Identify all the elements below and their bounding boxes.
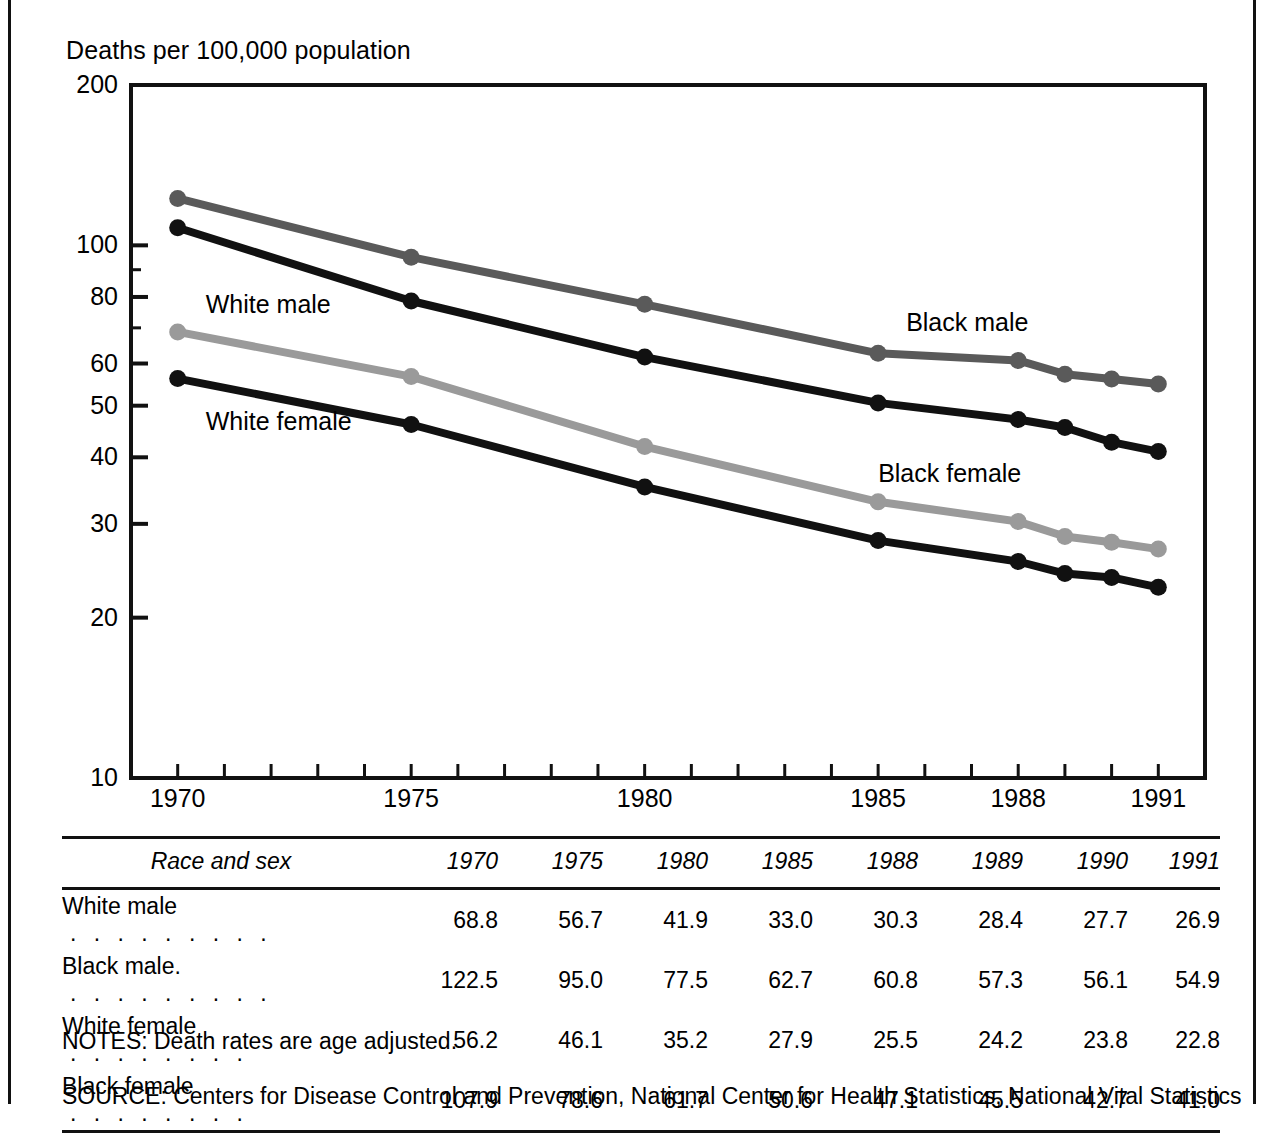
table-cell-1985: 27.9 bbox=[708, 1010, 813, 1070]
data-point-white-female-1970 bbox=[169, 370, 186, 387]
table-col-1989: 1989 bbox=[918, 839, 1023, 886]
data-point-white-male-1980 bbox=[636, 438, 653, 455]
table-col-race-and-sex: Race and sex bbox=[62, 839, 380, 886]
table-cell-1975: 95.0 bbox=[498, 950, 603, 1010]
data-point-black-male-1980 bbox=[636, 296, 653, 313]
data-point-black-female-1985 bbox=[870, 394, 887, 411]
table-cell-1989: 28.4 bbox=[918, 890, 1023, 950]
series-label-white-male: White male bbox=[206, 290, 331, 319]
table-cell-1991: 54.9 bbox=[1128, 950, 1220, 1010]
dot-leader: . . . . . . . . . bbox=[70, 920, 272, 947]
data-point-black-male-1990 bbox=[1103, 371, 1120, 388]
table-cell-1990: 27.7 bbox=[1023, 890, 1128, 950]
data-point-white-female-1990 bbox=[1103, 569, 1120, 586]
table-cell-1990: 23.8 bbox=[1023, 1010, 1128, 1070]
data-point-white-female-1991 bbox=[1150, 579, 1167, 596]
table-col-1990: 1990 bbox=[1023, 839, 1128, 886]
table-cell-1989: 57.3 bbox=[918, 950, 1023, 1010]
notes-text: NOTES: Death rates are age adjusted. bbox=[62, 1028, 457, 1055]
data-point-black-male-1988 bbox=[1010, 352, 1027, 369]
data-point-white-male-1985 bbox=[870, 493, 887, 510]
row-label-text: White male bbox=[62, 893, 177, 919]
y-tick-label-50: 50 bbox=[48, 393, 118, 418]
table-col-1988: 1988 bbox=[813, 839, 918, 886]
data-point-black-female-1980 bbox=[636, 349, 653, 366]
table-cell-1975: 46.1 bbox=[498, 1010, 603, 1070]
table-cell-1985: 62.7 bbox=[708, 950, 813, 1010]
table-cell-1989: 24.2 bbox=[918, 1010, 1023, 1070]
table-col-1975: 1975 bbox=[498, 839, 603, 886]
x-tick-label-1991: 1991 bbox=[1098, 786, 1218, 811]
table-cell-1991: 26.9 bbox=[1128, 890, 1220, 950]
row-label-text: Black male. bbox=[62, 953, 181, 979]
x-tick-label-1985: 1985 bbox=[818, 786, 938, 811]
data-point-white-male-1975 bbox=[403, 368, 420, 385]
data-point-black-female-1970 bbox=[169, 219, 186, 236]
data-point-black-male-1989 bbox=[1056, 366, 1073, 383]
line-chart-plot bbox=[0, 0, 1264, 830]
y-tick-label-60: 60 bbox=[48, 351, 118, 376]
table-cell-1988: 25.5 bbox=[813, 1010, 918, 1070]
table-header-row: Race and sex 1970 1975 1980 1985 1988 19… bbox=[62, 839, 1220, 886]
data-point-white-female-1985 bbox=[870, 532, 887, 549]
table-row: White male. . . . . . . . .68.856.741.93… bbox=[62, 890, 1220, 950]
table-cell-1980: 35.2 bbox=[603, 1010, 708, 1070]
data-point-black-female-1988 bbox=[1010, 411, 1027, 428]
data-point-black-female-1990 bbox=[1103, 434, 1120, 451]
y-tick-label-100: 100 bbox=[48, 232, 118, 257]
data-point-black-female-1975 bbox=[403, 293, 420, 310]
series-label-black-male: Black male bbox=[906, 308, 1028, 337]
table-cell-1980: 41.9 bbox=[603, 890, 708, 950]
data-point-black-male-1970 bbox=[169, 190, 186, 207]
table-col-1970: 1970 bbox=[380, 839, 498, 886]
x-tick-label-1980: 1980 bbox=[585, 786, 705, 811]
table-cell-1985: 33.0 bbox=[708, 890, 813, 950]
table-cell-1975: 56.7 bbox=[498, 890, 603, 950]
data-point-white-female-1988 bbox=[1010, 553, 1027, 570]
source-text: SOURCE: Centers for Disease Control and … bbox=[62, 1083, 1241, 1110]
data-point-white-female-1975 bbox=[403, 416, 420, 433]
y-tick-label-10: 10 bbox=[48, 765, 118, 790]
data-point-black-male-1991 bbox=[1150, 376, 1167, 393]
data-table: Race and sex 1970 1975 1980 1985 1988 19… bbox=[62, 839, 1220, 886]
data-point-white-male-1991 bbox=[1150, 541, 1167, 558]
table-cell-1970: 122.5 bbox=[380, 950, 498, 1010]
table-row: Black male.. . . . . . . . .122.595.077.… bbox=[62, 950, 1220, 1010]
x-tick-label-1970: 1970 bbox=[118, 786, 238, 811]
data-point-black-male-1975 bbox=[403, 249, 420, 266]
data-point-white-female-1989 bbox=[1056, 565, 1073, 582]
series-label-black-female: Black female bbox=[878, 459, 1021, 488]
table-cell-1970: 68.8 bbox=[380, 890, 498, 950]
data-point-black-female-1989 bbox=[1056, 419, 1073, 436]
y-tick-label-200: 200 bbox=[48, 72, 118, 97]
data-point-white-female-1980 bbox=[636, 478, 653, 495]
table-row-label: White male. . . . . . . . . bbox=[62, 890, 380, 950]
table-cell-1988: 30.3 bbox=[813, 890, 918, 950]
y-tick-label-30: 30 bbox=[48, 511, 118, 536]
table-row-label: Black male.. . . . . . . . . bbox=[62, 950, 380, 1010]
table-col-1991: 1991 bbox=[1128, 839, 1220, 886]
y-tick-label-20: 20 bbox=[48, 605, 118, 630]
table-cell-1980: 77.5 bbox=[603, 950, 708, 1010]
data-point-black-male-1985 bbox=[870, 345, 887, 362]
data-point-white-male-1970 bbox=[169, 323, 186, 340]
data-point-white-male-1990 bbox=[1103, 534, 1120, 551]
y-tick-label-80: 80 bbox=[48, 284, 118, 309]
table-col-1985: 1985 bbox=[708, 839, 813, 886]
data-point-black-female-1991 bbox=[1150, 443, 1167, 460]
table-cell-1990: 56.1 bbox=[1023, 950, 1128, 1010]
dot-leader: . . . . . . . . . bbox=[70, 980, 272, 1007]
series-label-white-female: White female bbox=[206, 407, 352, 436]
data-point-white-male-1988 bbox=[1010, 513, 1027, 530]
data-point-white-male-1989 bbox=[1056, 528, 1073, 545]
table-cell-1988: 60.8 bbox=[813, 950, 918, 1010]
x-tick-label-1975: 1975 bbox=[351, 786, 471, 811]
x-tick-label-1988: 1988 bbox=[958, 786, 1078, 811]
y-tick-label-40: 40 bbox=[48, 444, 118, 469]
table-cell-1991: 22.8 bbox=[1128, 1010, 1220, 1070]
table-col-1980: 1980 bbox=[603, 839, 708, 886]
